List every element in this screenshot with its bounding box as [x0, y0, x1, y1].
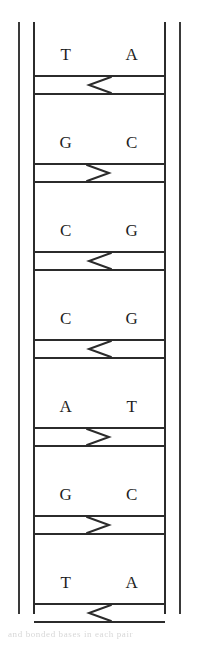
base-pair-labels: TA	[34, 572, 165, 598]
base-pair-cell: TA	[34, 550, 165, 638]
arrow-left-icon	[84, 251, 114, 271]
outer-left-rail	[18, 22, 20, 614]
base-letter-left: T	[55, 572, 77, 594]
outer-right-rail	[179, 22, 181, 614]
base-letter-right: A	[121, 572, 143, 594]
dna-ladder-figure: TAGCCGCGATGCTA and bonded bases in each …	[0, 0, 200, 646]
arrow-left-icon	[84, 339, 114, 359]
base-pair-labels: AT	[34, 396, 165, 422]
arrow-right-icon	[84, 515, 114, 535]
hydrogen-bond-rung	[34, 75, 165, 95]
caption-artifact: and bonded bases in each pair	[8, 628, 192, 640]
hydrogen-bond-rung	[34, 163, 165, 183]
base-letter-right: T	[121, 396, 143, 418]
base-letter-right: C	[121, 132, 143, 154]
arrow-right-icon	[84, 163, 114, 183]
hydrogen-bond-rung	[34, 251, 165, 271]
base-letter-left: C	[55, 220, 77, 242]
hydrogen-bond-rung	[34, 515, 165, 535]
arrow-left-icon	[84, 75, 114, 95]
base-pair-cell: GC	[34, 110, 165, 198]
base-pair-labels: CG	[34, 308, 165, 334]
hydrogen-bond-rung	[34, 603, 165, 623]
base-pair-cell: CG	[34, 198, 165, 286]
arrow-right-icon	[84, 427, 114, 447]
base-pair-labels: GC	[34, 484, 165, 510]
base-letter-left: G	[55, 484, 77, 506]
base-pair-cell: AT	[34, 374, 165, 462]
base-pair-labels: CG	[34, 220, 165, 246]
hydrogen-bond-rung	[34, 339, 165, 359]
base-letter-left: C	[55, 308, 77, 330]
arrow-left-icon	[84, 603, 114, 623]
hydrogen-bond-rung	[34, 427, 165, 447]
base-letter-right: G	[121, 308, 143, 330]
base-pair-labels: GC	[34, 132, 165, 158]
base-pair-labels: TA	[34, 44, 165, 70]
base-letter-right: C	[121, 484, 143, 506]
base-letter-right: G	[121, 220, 143, 242]
base-pair-cell: TA	[34, 22, 165, 110]
base-pair-cell: CG	[34, 286, 165, 374]
base-pair-cell: GC	[34, 462, 165, 550]
base-letter-right: A	[121, 44, 143, 66]
base-letter-left: G	[55, 132, 77, 154]
base-letter-left: A	[55, 396, 77, 418]
base-letter-left: T	[55, 44, 77, 66]
